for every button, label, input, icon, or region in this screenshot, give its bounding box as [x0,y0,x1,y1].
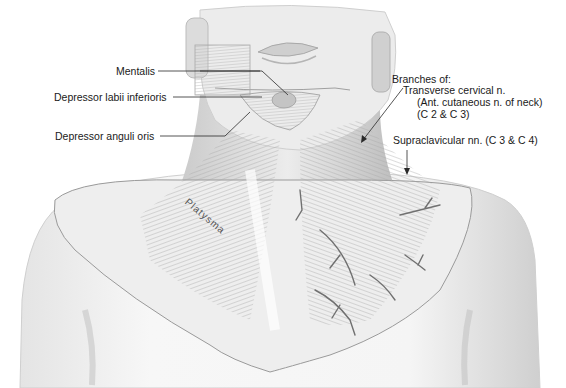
label-transverse-cervical: Transverse cervical n. [403,84,505,96]
anatomy-illustration [0,0,566,388]
label-depressor-labii-inferioris: Depressor labii inferioris [54,91,167,103]
cheek-window [195,45,250,95]
label-c2-c3: (C 2 & C 3) [417,108,470,120]
label-ant-cutaneous: (Ant. cutaneous n. of neck) [417,96,543,108]
ear-right [372,32,390,92]
label-mentalis: Mentalis [116,65,155,77]
label-supraclavicular: Supraclavicular nn. (C 3 & C 4) [393,134,538,146]
label-depressor-anguli-oris: Depressor anguli oris [55,130,154,142]
mentalis-muscle [272,92,296,108]
